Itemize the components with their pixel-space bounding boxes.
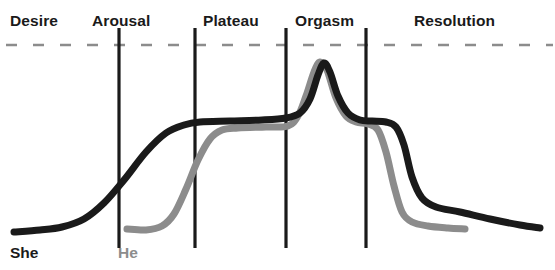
phase-label-orgasm: Orgasm [295, 13, 354, 29]
phase-label-desire: Desire [10, 13, 58, 29]
phase-label-resolution: Resolution [414, 13, 495, 29]
sexual-response-cycle-chart: Desire Arousal Plateau Orgasm Resolution… [0, 0, 555, 270]
curve-he [127, 62, 465, 230]
response-curves [14, 62, 540, 232]
chart-plot-area [0, 0, 555, 270]
phase-label-plateau: Plateau [203, 13, 259, 29]
phase-label-arousal: Arousal [92, 13, 150, 29]
curve-she [14, 63, 540, 232]
series-label-he: He [118, 245, 138, 261]
series-label-she: She [10, 245, 38, 261]
